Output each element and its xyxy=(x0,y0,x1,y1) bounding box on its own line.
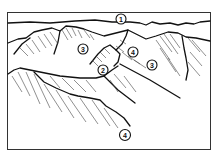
left-peak-face xyxy=(14,31,60,54)
lower-ridge xyxy=(34,72,130,126)
label-2-text: 2 xyxy=(101,67,105,74)
label-4b-text: 4 xyxy=(123,132,127,139)
label-4b: 4 xyxy=(120,130,131,141)
label-4a-text: 4 xyxy=(131,49,135,56)
label-2: 2 xyxy=(98,65,108,75)
hatching xyxy=(12,28,206,128)
label-3a: 3 xyxy=(78,44,88,54)
label-3b-text: 3 xyxy=(150,62,154,69)
middle-ridge xyxy=(8,26,210,43)
label-3a-text: 3 xyxy=(81,46,85,53)
label-1: 1 xyxy=(116,14,126,24)
right-peak-edge xyxy=(182,36,188,80)
label-4a: 4 xyxy=(128,47,138,57)
label-1-text: 1 xyxy=(119,16,123,23)
skyline-ridge xyxy=(8,20,210,25)
terrain-diagram: 1 3 4 3 2 4 xyxy=(0,0,216,156)
label-3b: 3 xyxy=(147,60,157,70)
